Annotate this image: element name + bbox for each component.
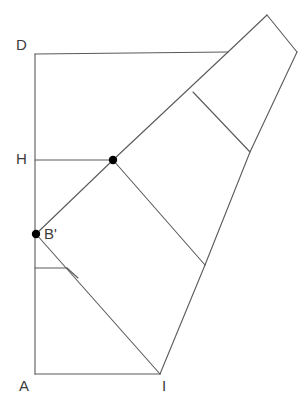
- path-inner-square-top: [193, 92, 250, 152]
- path-tick-diagonal-short: [67, 268, 78, 278]
- path-top-horizontal-D: [35, 52, 228, 54]
- vertex-label-I: I: [162, 378, 166, 393]
- path-inner-diagonal-Eprime-junction: [113, 160, 205, 265]
- geometry-canvas: [0, 0, 308, 403]
- vertex-label-A: A: [19, 378, 29, 393]
- path-right-long-edge: [205, 52, 297, 265]
- vertex-label-B: B': [44, 226, 57, 241]
- point-E-prime: [109, 156, 117, 164]
- point-B-prime: [32, 230, 40, 238]
- line-group: [35, 15, 297, 374]
- path-segment-Bprime-to-I: [36, 234, 160, 374]
- path-segment-junction-to-I: [160, 265, 205, 374]
- vertex-label-H: H: [16, 151, 27, 166]
- path-diagonal-Bprime-to-apex: [36, 15, 267, 234]
- geometry-figure: DHB'AI: [0, 0, 308, 403]
- vertex-label-D: D: [16, 37, 27, 52]
- path-upper-right-edge: [267, 15, 297, 52]
